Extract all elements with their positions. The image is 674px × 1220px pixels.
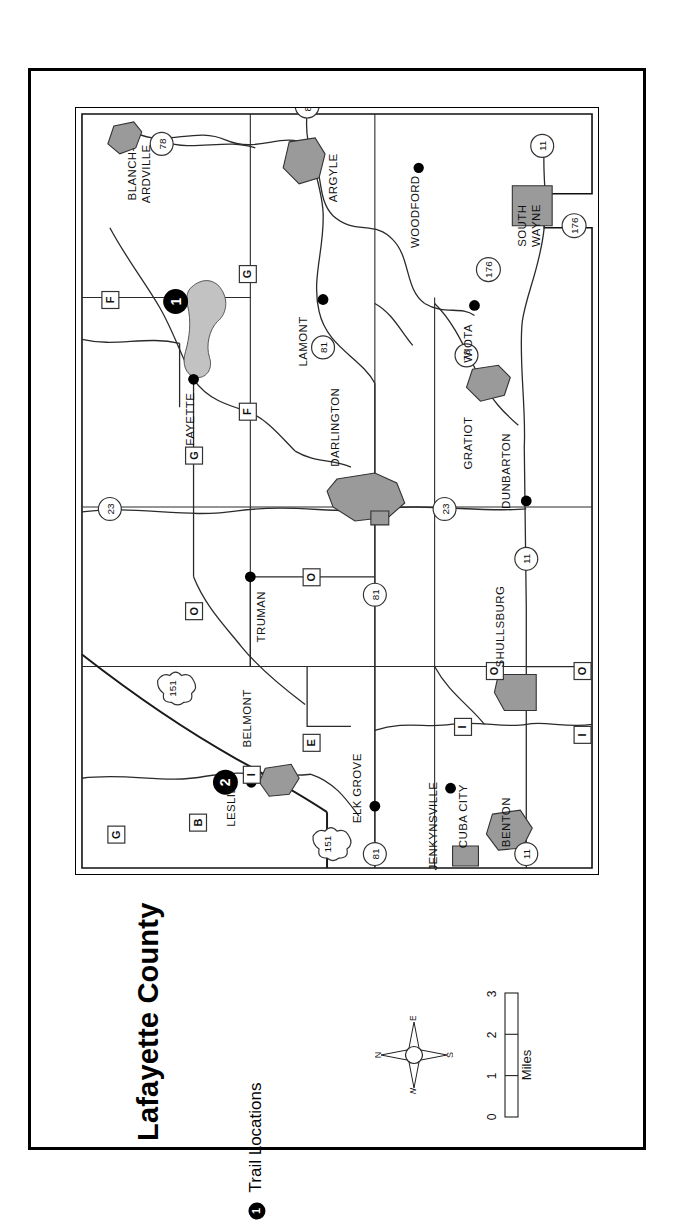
county-map-graphic[interactable]: .rd{fill:none;stroke:#2a2a2a;stroke-widt… [76,108,598,874]
county-road-marker-E-belmont: E [303,734,320,751]
svg-text:176: 176 [569,217,580,234]
svg-text:151: 151 [167,680,178,697]
svg-text:I: I [245,773,257,776]
compass-icon: E S W N [375,1016,453,1094]
county-road-marker-O-east: O [574,663,591,680]
poster-content: .rd{fill:none;stroke:#2a2a2a;stroke-widt… [28,68,646,1150]
svg-text:O: O [188,606,200,615]
compass-rose: E S W N [375,1016,453,1094]
svg-text:ELK GROVE: ELK GROVE [351,753,363,823]
svg-text:F: F [104,296,116,303]
svg-text:B: B [192,819,204,827]
svg-text:0: 0 [485,1113,499,1120]
county-road-marker-F-mid: F [239,403,256,420]
highway-shield-151-upper: 151 [158,672,196,705]
county-road-marker-G-upper: G [239,266,256,283]
highway-shield-176-mid: 176 [476,258,500,282]
county-road-marker-I-benton: I [455,718,472,735]
highway-shield-11-north: 11 [531,134,554,157]
scale-bar-graphic: 0 1 2 3 Miles [465,975,561,1135]
svg-text:1: 1 [168,297,184,305]
svg-text:GRATIOT: GRATIOT [462,417,474,470]
svg-text:O: O [576,666,588,675]
highway-shield-151-lower: 151 [313,828,351,861]
svg-text:81: 81 [318,341,329,353]
svg-text:2: 2 [485,1031,499,1038]
svg-text:78: 78 [157,138,168,150]
svg-text:S: S [445,1052,453,1058]
svg-text:E: E [408,1016,418,1021]
svg-text:CUBA CITY: CUBA CITY [457,784,469,848]
svg-text:23: 23 [105,503,116,515]
county-road-marker-I-east: I [574,726,591,743]
svg-text:JENKYNSVILLE: JENKYNSVILLE [427,782,439,871]
svg-text:TRUMAN: TRUMAN [255,591,267,642]
svg-text:11: 11 [537,140,548,151]
county-road-marker-F-upper: F [102,292,119,309]
svg-text:1: 1 [485,1072,499,1079]
svg-text:176: 176 [483,261,494,278]
svg-text:LESLIE: LESLIE [225,786,237,827]
legend: 1 Trail Locations [246,1083,266,1220]
highway-shield-81-truman: 81 [363,583,386,606]
svg-text:E: E [305,739,317,746]
svg-text:23: 23 [440,503,451,515]
svg-text:I: I [576,733,588,736]
county-road-marker-G-mid: G [186,447,203,464]
highway-shield-11-mid: 11 [515,547,538,570]
map-page: .rd{fill:none;stroke:#2a2a2a;stroke-widt… [0,0,674,1220]
svg-text:DARLINGTON: DARLINGTON [329,388,341,467]
svg-text:11: 11 [521,848,532,859]
county-road-marker-O-upper: O [186,603,203,620]
svg-text:WIOTA: WIOTA [462,324,474,363]
svg-text:Miles: Miles [519,1049,534,1080]
municipal-areas [108,122,552,866]
highway-shield-23-east: 23 [433,497,456,520]
county-road-marker-G-lower: G [108,826,125,843]
svg-text:O: O [305,573,317,582]
map-frame[interactable]: .rd{fill:none;stroke:#2a2a2a;stroke-widt… [75,107,599,875]
legend-trail-marker-icon: 1 [248,1202,265,1219]
svg-text:2: 2 [217,778,233,786]
highway-shield-81-south: 81 [363,843,386,866]
page-title: Lafayette County [132,903,165,1141]
county-road-marker-O-truman: O [303,569,320,586]
svg-text:81: 81 [302,108,313,112]
title-block: Lafayette County 1 Trail Locations [28,883,646,1148]
svg-text:BLANCH-: BLANCH- [126,147,138,200]
svg-text:WOODFORD: WOODFORD [409,175,421,248]
svg-text:81: 81 [370,589,381,601]
highway-shield-176-east: 176 [562,214,586,238]
scale-bar: 0 1 2 3 Miles [465,975,561,1135]
svg-text:W: W [408,1087,418,1094]
svg-text:G: G [188,451,200,460]
svg-text:G: G [241,270,253,279]
svg-text:LAMONT: LAMONT [297,316,309,366]
svg-text:81: 81 [370,848,381,860]
highway-shield-81-north: 81 [295,108,319,118]
svg-text:FAYETTE: FAYETTE [184,393,196,446]
svg-text:151: 151 [322,835,333,852]
county-road-marker-B: B [190,814,207,831]
svg-text:ARGYLE: ARGYLE [327,153,339,202]
highway-shield-81-lamont: 81 [312,336,335,359]
svg-text:ARDVILLE: ARDVILLE [140,145,152,204]
highway-shield-11-south: 11 [515,843,538,866]
trail-marker-1[interactable]: 1 [163,289,188,314]
svg-text:I: I [457,725,469,728]
legend-label: Trail Locations [246,1083,266,1193]
svg-text:WAYNE: WAYNE [530,204,542,247]
svg-text:G: G [110,830,122,839]
svg-text:BENTON: BENTON [500,797,512,847]
svg-text:SOUTH: SOUTH [516,205,528,247]
highway-shield-23-west: 23 [98,497,121,520]
svg-text:3: 3 [485,990,499,997]
svg-text:DUNBARTON: DUNBARTON [500,433,512,509]
svg-text:BELMONT: BELMONT [241,689,253,747]
svg-text:11: 11 [521,553,532,564]
highway-shield-78-north: 78 [150,132,173,155]
svg-text:F: F [241,408,253,415]
svg-text:SHULLSBURG: SHULLSBURG [494,586,506,668]
lake-area [184,281,226,378]
county-road-marker-I-belmont: I [243,766,260,783]
